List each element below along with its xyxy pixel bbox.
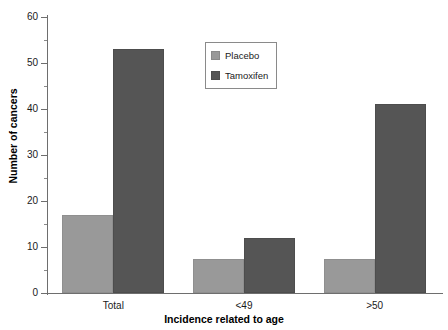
y-tick-0 [41,293,47,294]
y-minor-tick-55 [44,40,47,41]
y-tick-label-50: 50 [12,57,38,68]
x-axis-title: Incidence related to age [0,313,448,325]
y-tick-label-10: 10 [12,241,38,252]
bar-chart: 0102030405060 Total<49>50 Incidence rela… [0,0,448,330]
bar-placebo-gt50 [324,259,375,294]
y-axis-title: Number of cancers [7,71,19,201]
legend-label-tamoxifen: Tamoxifen [225,71,268,81]
chart-legend: Placebo Tamoxifen [205,42,277,89]
y-minor-tick-35 [44,132,47,133]
y-tick-20 [41,201,47,202]
bar-placebo-lt49 [193,259,244,294]
legend-item-tamoxifen: Tamoxifen [211,68,270,83]
y-minor-tick-5 [44,270,47,271]
bar-tamoxifen-Total [113,49,164,293]
y-tick-50 [41,63,47,64]
x-category-label-lt49: <49 [179,300,310,311]
y-tick-60 [41,17,47,18]
y-tick-40 [41,109,47,110]
y-minor-tick-45 [44,86,47,87]
legend-swatch-placebo [211,51,220,60]
x-axis-line [47,293,443,294]
legend-swatch-tamoxifen [211,71,220,80]
y-tick-label-60: 60 [12,11,38,22]
y-tick-10 [41,247,47,248]
legend-item-placebo: Placebo [211,48,270,63]
bar-placebo-Total [62,215,113,293]
y-tick-label-0: 0 [12,287,38,298]
y-minor-tick-25 [44,178,47,179]
bar-tamoxifen-gt50 [375,104,426,293]
legend-label-placebo: Placebo [225,51,259,61]
x-category-label-Total: Total [48,300,179,311]
x-category-label-gt50: >50 [309,300,440,311]
y-tick-30 [41,155,47,156]
bar-tamoxifen-lt49 [244,238,295,293]
y-minor-tick-15 [44,224,47,225]
